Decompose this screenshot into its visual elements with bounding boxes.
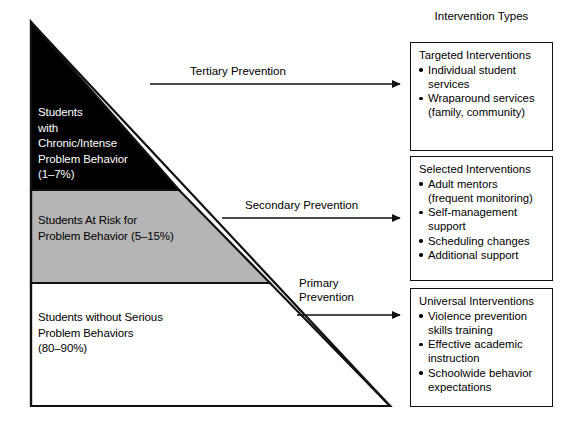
list-item: Adult mentors (frequent monitoring) (418, 177, 548, 205)
intervention-box-list: Violence prevention skills training Effe… (418, 309, 548, 394)
intervention-box-universal: Universal Interventions Violence prevent… (410, 288, 553, 407)
intervention-box-title: Universal Interventions (419, 294, 548, 308)
intervention-box-title: Targeted Interventions (419, 48, 548, 62)
list-item: Self-management support (418, 205, 548, 233)
intervention-box-list: Adult mentors (frequent monitoring) Self… (418, 177, 548, 262)
arrow-label-secondary-prevention: Secondary Prevention (245, 198, 358, 212)
list-item: Schoolwide behavior expectations (418, 366, 548, 394)
arrow-label-primary-prevention: Primary Prevention (299, 276, 354, 304)
list-item: Wraparound services (family, community) (418, 91, 548, 119)
intervention-box-list: Individual student services Wraparound s… (418, 63, 548, 120)
pyramid-label-at-risk: Students At Risk for Problem Behavior (5… (38, 213, 174, 244)
pyramid-label-no-problem: Students without Serious Problem Behavio… (38, 310, 163, 357)
list-item: Additional support (418, 248, 548, 262)
list-item: Violence prevention skills training (418, 309, 548, 337)
list-item: Individual student services (418, 63, 548, 91)
list-item: Scheduling changes (418, 234, 548, 248)
intervention-box-targeted: Targeted Interventions Individual studen… (410, 42, 553, 151)
intervention-box-selected: Selected Interventions Adult mentors (fr… (410, 156, 553, 281)
diagram-canvas: Students with Chronic/Intense Problem Be… (0, 0, 585, 427)
pyramid-label-chronic: Students with Chronic/Intense Problem Be… (38, 105, 128, 183)
list-item: Effective academic instruction (418, 337, 548, 365)
arrow-label-tertiary-prevention: Tertiary Prevention (190, 64, 286, 78)
intervention-box-title: Selected Interventions (419, 162, 548, 176)
intervention-types-header: Intervention Types (410, 10, 553, 22)
